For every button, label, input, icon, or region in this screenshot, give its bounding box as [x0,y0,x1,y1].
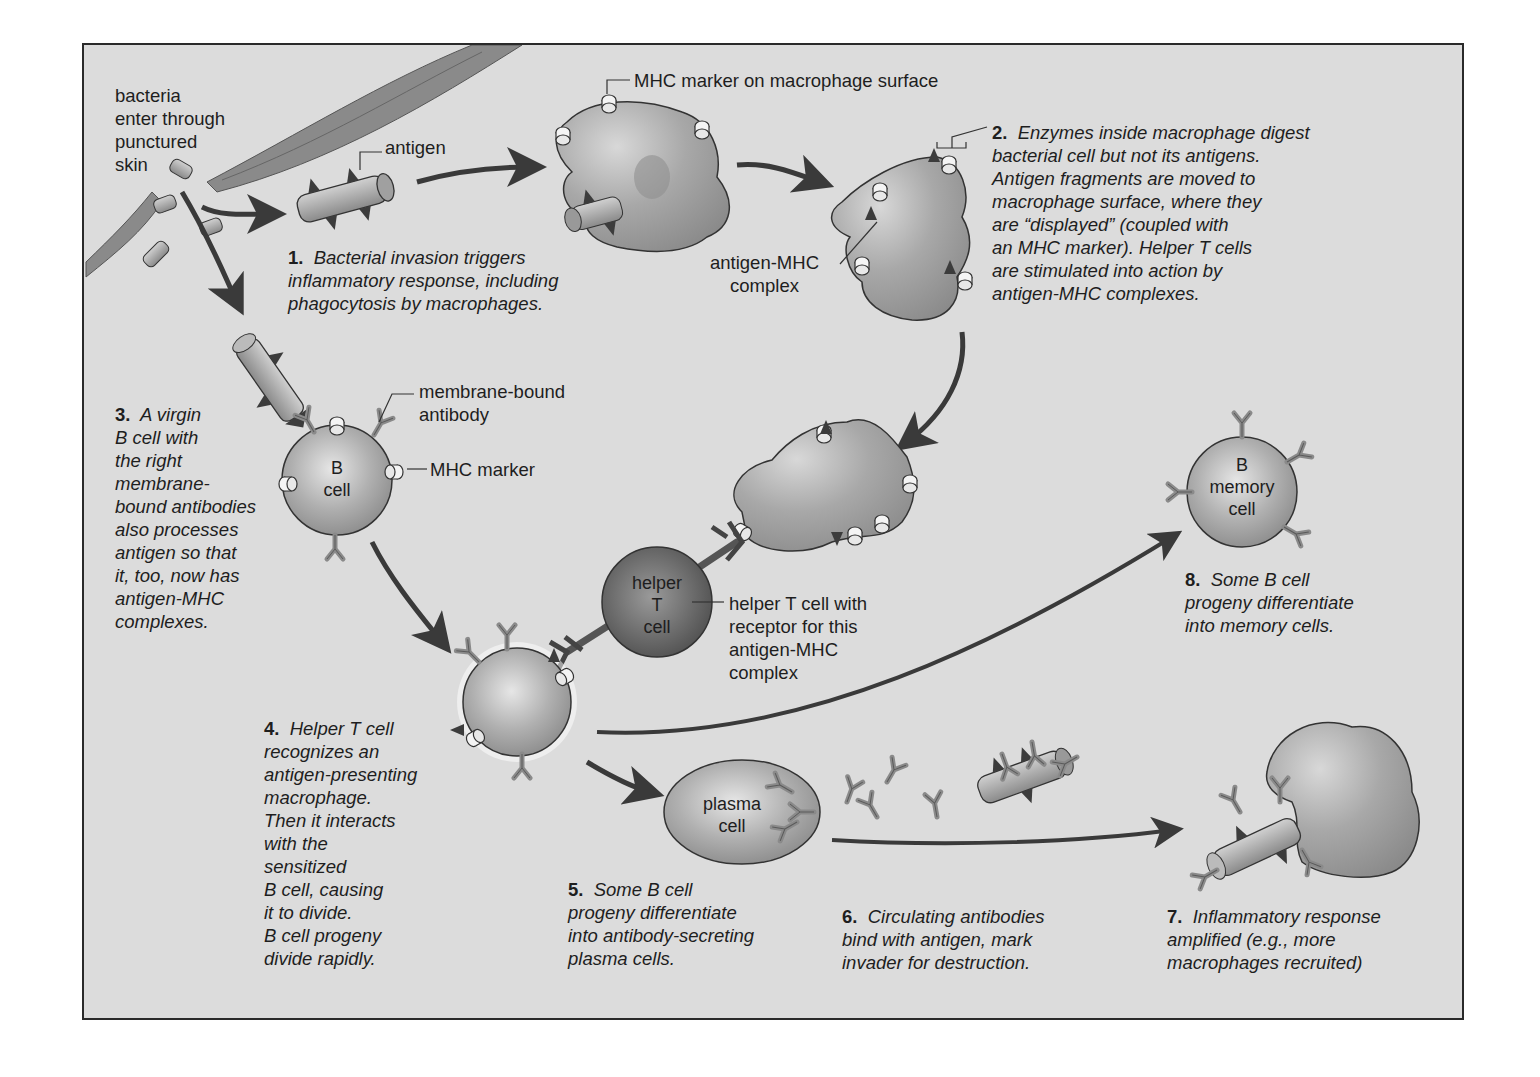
mhc-macrophage-label: MHC marker on macrophage surface [634,69,938,92]
step-8: 8. Some B cell progeny differentiate int… [1185,568,1354,637]
step-4: 4. Helper T cell recognizes an antigen-p… [264,717,417,970]
mhc-marker-label: MHC marker [430,458,535,481]
step-1: 1. Bacterial invasion triggers inflammat… [288,246,558,315]
macrophage-with-helper-t-icon [731,420,917,551]
antigen-mhc-complex-label: antigen-MHC complex [710,251,819,297]
bacterium-antigen-icon [291,158,400,237]
step-6: 6. Circulating antibodies bind with anti… [842,905,1045,974]
macrophage-recruited-icon [1192,723,1419,895]
helper-t-cell-label: helper T cell [617,572,697,638]
b-cell-label: B cell [312,457,362,501]
macrophage-engulfing-icon [556,95,729,251]
bacteria-entry-label: bacteria enter through punctured skin [115,84,225,176]
antigen-label: antigen [385,136,446,159]
diagram-frame: bacteria enter through punctured skin an… [82,43,1464,1020]
helper-t-receptor-label: helper T cell with receptor for this ant… [729,592,867,684]
step-2: 2. Enzymes inside macrophage digest bact… [992,121,1310,305]
b-memory-cell-label: B memory cell [1202,454,1282,520]
step-3: 3. A virgin B cell with the right membra… [115,403,256,633]
macrophage-presenting-icon [832,127,987,320]
step-5: 5. Some B cell progeny differentiate int… [568,878,754,970]
antibody-tagged-bacterium-icon [970,733,1081,819]
plasma-cell-label: plasma cell [692,793,772,837]
step-7: 7. Inflammatory response amplified (e.g.… [1167,905,1381,974]
membrane-bound-antibody-label: membrane-bound antibody [419,380,565,426]
free-antibodies-icon [839,757,944,821]
